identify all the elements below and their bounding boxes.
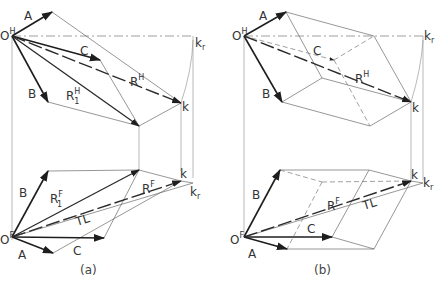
true-length-label: TL — [360, 195, 379, 213]
vector-b-label: B — [262, 87, 270, 101]
vector-c-label: C — [80, 44, 88, 58]
box-edge — [282, 102, 370, 126]
vector-c-label: C — [307, 222, 315, 236]
box-edge — [370, 102, 411, 126]
point-k-label: k — [182, 100, 189, 114]
point-kr-label: kr — [423, 176, 434, 192]
construction-line — [48, 102, 139, 126]
resultant-label: RH — [130, 73, 144, 89]
caption-a: (a) — [80, 263, 97, 277]
panel-a-front-view: OF B C A RF1 RF TL k kr — [0, 167, 201, 262]
box-edge — [332, 237, 374, 249]
resultant-label: RH — [355, 70, 369, 86]
construction-line — [139, 103, 181, 126]
origin-label: OF — [230, 231, 244, 247]
rotation-arc — [181, 40, 193, 103]
vector-a-label: A — [24, 9, 33, 23]
box-edge — [286, 12, 374, 36]
point-kr-label: kr — [424, 29, 435, 45]
vector-c-label: C — [313, 44, 321, 58]
hidden-edge — [280, 170, 322, 182]
construction-line — [48, 170, 139, 171]
point-kr-label: kr — [195, 36, 206, 52]
box-edge — [374, 36, 411, 102]
vector-addition-figure: OH A B C RH RH1 k kr OF B C — [0, 0, 438, 283]
vector-a-label: A — [18, 248, 27, 262]
true-length-line — [12, 183, 193, 237]
box-edge — [374, 181, 411, 249]
point-kr-label: kr — [190, 185, 201, 201]
vector-c — [12, 237, 104, 238]
resultant-label: RF — [327, 197, 340, 213]
resultant-label: RF — [142, 180, 155, 196]
box-edge — [369, 170, 411, 181]
vector-a-label: A — [248, 247, 257, 261]
partial-resultant-label: RF1 — [50, 190, 63, 209]
box-edge — [322, 78, 411, 102]
vector-b-label: B — [28, 87, 36, 101]
partial-resultant-r1 — [12, 36, 139, 126]
origin-label: OH — [232, 27, 247, 43]
caption-b: (b) — [314, 263, 331, 277]
vector-a-label: A — [259, 9, 268, 23]
hidden-edge — [287, 182, 322, 249]
point-k-label: k — [412, 101, 419, 115]
origin-label: OH — [0, 27, 15, 43]
origin-label: OF — [0, 231, 14, 247]
construction-line — [100, 60, 139, 126]
vector-b-label: B — [19, 186, 27, 200]
vector-b — [244, 170, 280, 237]
rotation-arc — [411, 40, 423, 102]
panel-b-front-view: OF B C A RF TL k kr — [230, 168, 434, 261]
panel-b: OH A B C RH k kr — [230, 9, 435, 277]
construction-line — [139, 170, 181, 181]
construction-line — [181, 181, 193, 183]
panel-a-top-view: OH A B C RH RH1 k kr — [0, 9, 206, 240]
point-k-label: k — [411, 168, 418, 182]
panel-a: OH A B C RH RH1 k kr OF B C — [0, 9, 206, 277]
partial-resultant-label: RH1 — [66, 87, 80, 106]
vector-c-label: C — [73, 244, 81, 258]
point-k-label: k — [180, 167, 187, 181]
box-edge — [282, 78, 322, 102]
resultant-r — [12, 36, 181, 103]
hidden-edge — [322, 181, 411, 182]
vector-b-label: B — [252, 188, 260, 202]
hidden-edge — [334, 36, 374, 60]
